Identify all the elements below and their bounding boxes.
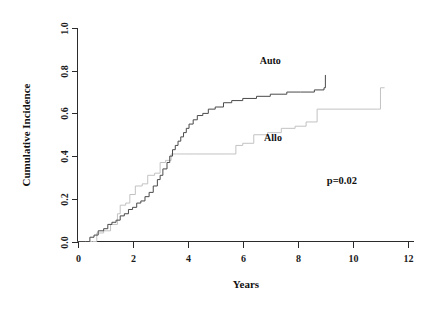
y-tick-label: 0.0 [59, 236, 70, 249]
x-tick-label: 2 [131, 253, 136, 264]
y-tick-label: 0.2 [59, 193, 70, 206]
x-axis-ticks [79, 242, 409, 249]
auto-label: Auto [260, 55, 281, 66]
chart-annotations: AutoAllop=0.02 [260, 55, 357, 186]
plot-area: 0.00.20.40.60.81.0 024681012 AutoAllop=0… [0, 0, 436, 310]
allo-curve [78, 88, 385, 242]
x-axis: 024681012 [76, 242, 414, 265]
x-axis-title: Years [233, 278, 260, 290]
x-tick-label: 4 [186, 253, 191, 264]
y-tick-label: 0.8 [59, 65, 70, 78]
y-tick-label: 0.6 [59, 107, 70, 120]
allo-label: Allo [264, 132, 282, 143]
x-tick-label: 8 [296, 253, 301, 264]
x-axis-tick-labels: 024681012 [76, 253, 414, 264]
p-value: p=0.02 [327, 175, 357, 186]
y-axis-ticks [72, 29, 78, 243]
y-axis-title: Cumulative Incidence [20, 83, 32, 186]
x-tick-label: 6 [241, 253, 246, 264]
x-tick-label: 10 [349, 253, 359, 264]
x-tick-label: 0 [76, 253, 81, 264]
y-tick-label: 1.0 [59, 22, 70, 35]
x-tick-label: 12 [404, 253, 414, 264]
y-tick-label: 0.4 [59, 150, 70, 163]
y-axis: 0.00.20.40.60.81.0 [59, 22, 77, 249]
data-series-group [78, 75, 385, 242]
auto-curve [78, 75, 326, 242]
y-axis-tick-labels: 0.00.20.40.60.81.0 [59, 22, 70, 249]
cumulative-incidence-chart: 0.00.20.40.60.81.0 024681012 AutoAllop=0… [0, 0, 436, 310]
